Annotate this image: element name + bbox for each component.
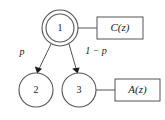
state-transition-diagram: 1 2 3 C(z) A(z) p 1 − p — [0, 0, 165, 120]
edge-label-p: p — [19, 46, 25, 57]
node-1-label: 1 — [58, 22, 63, 33]
node-2-label: 2 — [34, 84, 39, 95]
edge-node1-to-node2 — [39, 44, 52, 70]
edge-label-one-minus-p: 1 − p — [85, 45, 107, 56]
edge-node1-to-node3 — [69, 44, 77, 70]
c-box-label: C(z) — [111, 21, 130, 34]
node-3-label: 3 — [77, 84, 82, 95]
a-box-label: A(z) — [127, 83, 147, 96]
diagram-canvas: 1 2 3 C(z) A(z) p 1 − p — [0, 0, 165, 120]
